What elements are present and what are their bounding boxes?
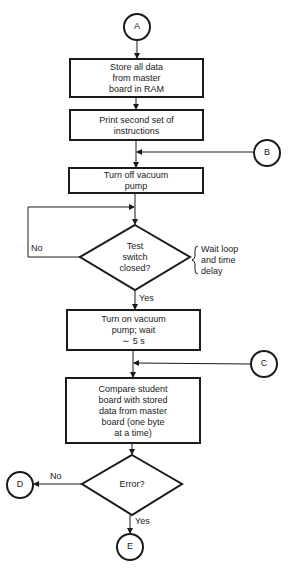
test-line-3: closed? — [119, 263, 150, 274]
annotation-brace — [192, 246, 198, 274]
test-yes-label: Yes — [139, 293, 154, 304]
error-yes-label: Yes — [135, 516, 150, 527]
arrow-c-to-flow — [134, 363, 251, 364]
connector-b-label: B — [257, 147, 277, 158]
store-line-2: from master — [112, 73, 160, 84]
compare-line-1: Compare student — [98, 384, 167, 395]
compare-line-2: board with stored — [98, 395, 167, 406]
pump-off-line-2: pump — [125, 181, 148, 192]
print-line-1: Print second set of — [99, 115, 174, 126]
connector-e-label: E — [120, 541, 140, 552]
test-line-1: Test — [127, 241, 144, 252]
store-data-text: Store all data from master board in RAM — [70, 60, 203, 97]
test-line-2: switch — [122, 252, 147, 263]
pump-on-text: Turn on vacuum pump; wait ∼ 5 s — [67, 311, 200, 350]
connector-a-label: A — [127, 21, 147, 32]
wait-loop-annotation: Wait loop and time delay — [201, 244, 238, 277]
print-line-2: instructions — [114, 126, 160, 137]
pump-on-line-2: pump; wait — [112, 325, 156, 336]
annotation-line-2: and time — [201, 255, 236, 266]
print-instructions-text: Print second set of instructions — [70, 111, 203, 140]
error-no-label: No — [50, 471, 62, 482]
pump-on-line-3: ∼ 5 s — [122, 336, 145, 347]
compare-line-5: at a time) — [114, 428, 152, 439]
store-line-1: Store all data — [110, 62, 163, 73]
pump-off-line-1: Turn off vacuum — [104, 170, 169, 181]
test-switch-text: Test switch closed? — [105, 240, 165, 274]
compare-line-3: data from master — [99, 406, 167, 417]
pump-on-line-1: Turn on vacuum — [101, 314, 166, 325]
connector-d-label: D — [10, 479, 30, 490]
pump-off-text: Turn off vacuum pump — [69, 169, 203, 193]
compare-boards-text: Compare student board with stored data f… — [66, 379, 200, 443]
error-text: Error? — [102, 479, 162, 490]
annotation-line-1: Wait loop — [201, 244, 238, 255]
connector-c-label: C — [254, 358, 274, 369]
compare-line-4: board (one byte — [101, 417, 164, 428]
annotation-line-3: delay — [201, 266, 223, 277]
test-no-label: No — [31, 243, 43, 254]
store-line-3: board in RAM — [109, 84, 164, 95]
